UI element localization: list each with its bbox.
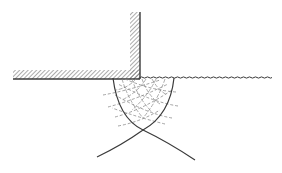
- dashed-mesh-line: [118, 84, 178, 106]
- mesh-line: [143, 79, 165, 118]
- right-arc: [143, 78, 195, 160]
- diagram-canvas: [0, 0, 282, 173]
- dashed-mesh-line: [103, 80, 160, 95]
- vertical-hatch: [130, 12, 140, 79]
- hatched-wall: [13, 12, 140, 79]
- slip-line-diagram: [0, 0, 282, 173]
- free-surface-line: [140, 77, 272, 78]
- wavy-surface: [140, 77, 272, 78]
- horizontal-hatch: [13, 70, 140, 79]
- boundary-arcs: [97, 78, 195, 160]
- mesh-line: [142, 79, 160, 104]
